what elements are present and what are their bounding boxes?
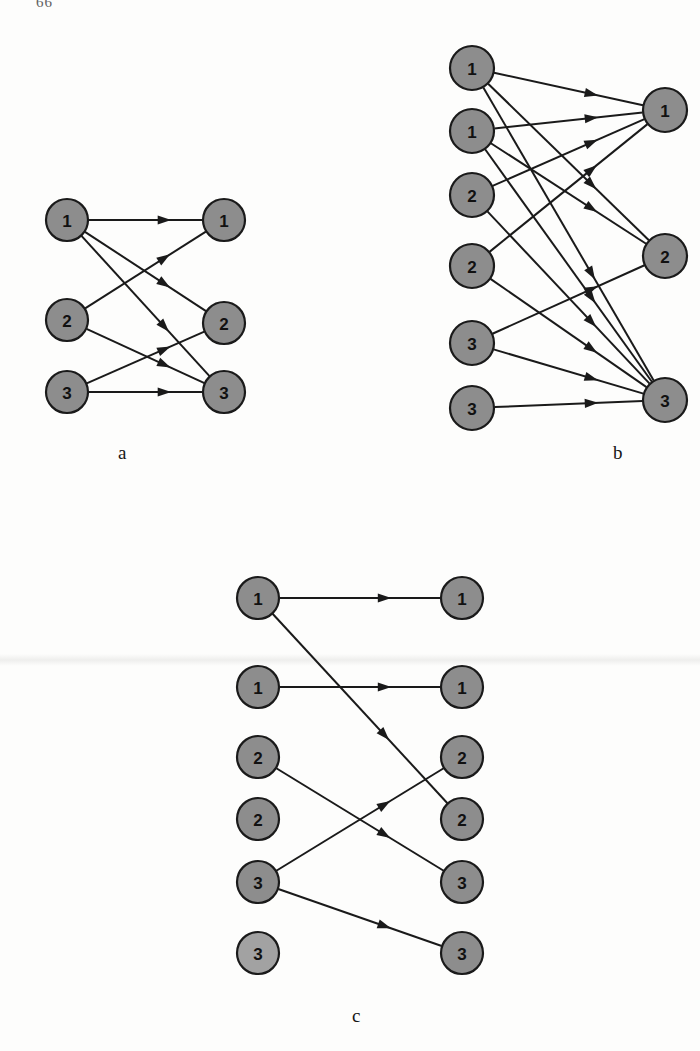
node-circle[interactable] xyxy=(441,736,483,778)
panel-caption-c: c xyxy=(352,1005,360,1027)
edge-cL0-to-cR3 xyxy=(273,614,448,803)
graph-node-c-right-1[interactable]: 1 xyxy=(441,666,483,708)
graph-node-c-right-2[interactable]: 2 xyxy=(441,736,483,778)
node-circle[interactable] xyxy=(237,861,279,903)
graph-node-c-right-2[interactable]: 2 xyxy=(441,798,483,840)
node-circle[interactable] xyxy=(441,798,483,840)
arrow-head-icon xyxy=(377,919,391,928)
graph-node-c-left-3[interactable]: 3 xyxy=(237,861,279,903)
node-circle[interactable] xyxy=(441,932,483,974)
node-circle[interactable] xyxy=(441,861,483,903)
graph-node-c-right-3[interactable]: 3 xyxy=(441,861,483,903)
graph-node-c-left-1[interactable]: 1 xyxy=(237,577,279,619)
arrow-head-icon xyxy=(378,682,392,691)
edge-cL0-to-cR0 xyxy=(280,593,441,602)
node-circle[interactable] xyxy=(237,666,279,708)
node-circle[interactable] xyxy=(441,666,483,708)
figure-page: 66 123123a112233123b112233112233c xyxy=(0,0,700,1051)
edge-line xyxy=(273,614,448,803)
graph-node-c-left-2[interactable]: 2 xyxy=(237,736,279,778)
node-circle[interactable] xyxy=(237,736,279,778)
panel-c: 112233112233 xyxy=(0,0,700,1051)
node-circle[interactable] xyxy=(237,577,279,619)
graph-node-c-left-3[interactable]: 3 xyxy=(237,932,279,974)
graph-node-c-left-1[interactable]: 1 xyxy=(237,666,279,708)
graph-node-c-right-3[interactable]: 3 xyxy=(441,932,483,974)
arrow-head-icon xyxy=(376,827,390,838)
graph-node-c-left-2[interactable]: 2 xyxy=(237,798,279,840)
node-circle[interactable] xyxy=(237,798,279,840)
arrow-head-icon xyxy=(378,593,392,602)
graph-node-c-right-1[interactable]: 1 xyxy=(441,577,483,619)
edge-group xyxy=(273,593,448,946)
node-circle[interactable] xyxy=(237,932,279,974)
edge-cL4-to-cR5 xyxy=(278,889,441,946)
edge-cL1-to-cR1 xyxy=(280,682,441,691)
node-circle[interactable] xyxy=(441,577,483,619)
node-group: 112233112233 xyxy=(237,577,483,974)
arrow-head-icon xyxy=(376,801,390,812)
edge-line xyxy=(278,889,441,946)
